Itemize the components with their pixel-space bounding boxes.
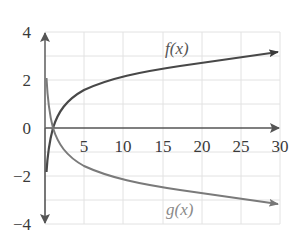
chart: 4 2 0 −2 −4 5 10 15 20 25 30 f(x) g(x) (0, 0, 302, 247)
y-tick-labels: 4 2 0 −2 −4 (13, 23, 32, 234)
svg-text:5: 5 (80, 137, 89, 156)
svg-text:2: 2 (23, 71, 32, 90)
svg-text:−2: −2 (13, 167, 31, 186)
svg-text:15: 15 (155, 137, 172, 156)
svg-text:0: 0 (23, 119, 32, 138)
label-g: g(x) (166, 200, 194, 219)
svg-text:25: 25 (233, 137, 250, 156)
svg-text:20: 20 (194, 137, 211, 156)
x-tick-labels: 5 10 15 20 25 30 (80, 137, 289, 156)
svg-text:10: 10 (115, 137, 132, 156)
svg-text:4: 4 (23, 23, 32, 42)
label-f: f(x) (165, 39, 189, 58)
svg-text:30: 30 (272, 137, 289, 156)
svg-text:−4: −4 (13, 215, 32, 234)
